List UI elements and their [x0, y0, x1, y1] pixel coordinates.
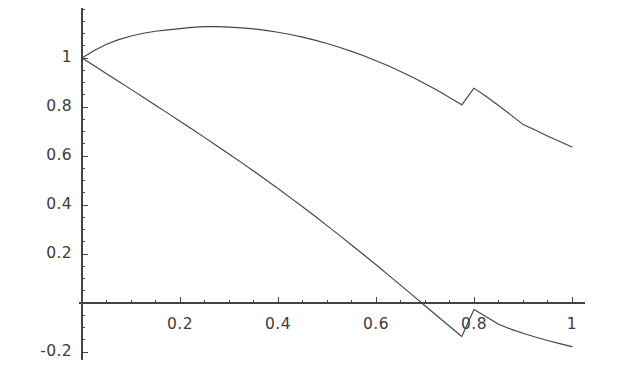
- x-axis-tick-label: 0.4: [248, 317, 308, 333]
- axes-layer: [79, 8, 585, 360]
- y-axis-tick-label: 0.6: [46, 148, 72, 164]
- curve-upper-curve: [82, 27, 572, 147]
- plot-figure: 10.80.60.40.2-0.20.20.40.60.81: [0, 0, 618, 369]
- x-axis-tick-label: 1: [542, 317, 602, 333]
- plot-canvas: [0, 0, 618, 369]
- x-axis-tick-label: 0.6: [346, 317, 406, 333]
- x-axis-tick-label: 0.8: [444, 317, 504, 333]
- y-axis-tick-label: 1: [62, 50, 72, 66]
- y-axis-tick-label: 0.8: [46, 99, 72, 115]
- x-axis-tick-label: 0.2: [150, 317, 210, 333]
- y-axis-tick-label: 0.2: [46, 246, 72, 262]
- y-axis-tick-label: 0.4: [46, 197, 72, 213]
- data-series-layer: [82, 27, 572, 347]
- tick-marks-layer: [82, 9, 572, 352]
- y-axis-tick-label: -0.2: [40, 344, 72, 360]
